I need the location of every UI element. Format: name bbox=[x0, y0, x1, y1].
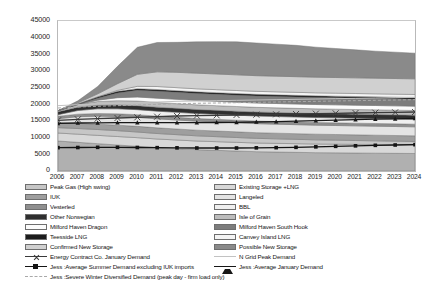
legend-item-label: IUK bbox=[50, 193, 60, 200]
line-marker bbox=[215, 146, 219, 150]
legend-item[interactable]: Jess :Average Summer Demand excluding IU… bbox=[25, 262, 215, 271]
legend-item[interactable]: Other Norwegian bbox=[25, 212, 215, 221]
line-marker bbox=[136, 146, 140, 150]
y-axis-tick: 20000 bbox=[2, 100, 50, 107]
legend-swatch-icon bbox=[25, 194, 47, 200]
legend-swatch-icon bbox=[25, 214, 47, 220]
legend-item-label: Existing Storage +LNG bbox=[239, 183, 299, 190]
legend-item[interactable]: Jess :Average January Demand bbox=[214, 262, 424, 271]
line-marker bbox=[58, 146, 60, 150]
y-axis-tick: 10000 bbox=[2, 133, 50, 140]
stacked-area-plot bbox=[58, 21, 415, 171]
legend-item[interactable]: Jess :Severe Winter Diversified Demand (… bbox=[25, 272, 215, 281]
line-marker bbox=[374, 144, 378, 148]
line-marker bbox=[76, 146, 80, 150]
legend-swatch-icon bbox=[25, 204, 47, 210]
legend-item-label: Jess :Average January Demand bbox=[239, 263, 323, 270]
line-marker bbox=[334, 145, 338, 149]
legend-item-label: Milford Haven Dragon bbox=[50, 223, 107, 230]
line-marker bbox=[235, 146, 239, 150]
legend-swatch-icon bbox=[25, 244, 47, 250]
legend-line-icon bbox=[25, 273, 47, 280]
legend-item[interactable]: N Grid Peak Demand bbox=[214, 252, 424, 261]
line-marker bbox=[175, 146, 179, 150]
legend-item[interactable]: Vesterled bbox=[25, 202, 215, 211]
legend-swatch-icon bbox=[25, 224, 47, 230]
legend-item[interactable]: IUK bbox=[25, 192, 215, 201]
legend-swatch-icon bbox=[214, 234, 236, 240]
legend-item[interactable]: Peak Gas (High swing) bbox=[25, 182, 215, 191]
legend-item[interactable]: Milford Haven Dragon bbox=[25, 222, 215, 231]
legend-item-label: Isle of Grain bbox=[239, 213, 270, 220]
line-marker bbox=[155, 146, 159, 150]
legend-swatch-icon bbox=[214, 184, 236, 190]
legend-column-left: Peak Gas (High swing)IUKVesterledOther N… bbox=[25, 182, 215, 282]
legend-item-label: Teesside LNG bbox=[50, 233, 87, 240]
legend-item[interactable]: Langeled bbox=[214, 192, 424, 201]
legend-item-label: Vesterled bbox=[50, 203, 74, 210]
line-marker bbox=[274, 146, 278, 150]
legend-item-label: Milford Haven South Hook bbox=[239, 223, 308, 230]
legend-item-label: BBL bbox=[239, 203, 250, 210]
y-axis-tick: 25000 bbox=[2, 83, 50, 90]
legend-item[interactable]: Canvey Island LNG bbox=[214, 232, 424, 241]
line-marker bbox=[393, 143, 397, 147]
y-axis-tick: 40000 bbox=[2, 33, 50, 40]
x-axis-tick: 2024 bbox=[402, 173, 426, 180]
legend-item-label: Possible New Storage bbox=[239, 243, 297, 250]
legend-swatch-icon bbox=[214, 224, 236, 230]
legend-item-label: Energy Contract Co. January Demand bbox=[50, 253, 150, 260]
chart-container: 0500010000150002000025000300003500040000… bbox=[0, 0, 441, 180]
legend-swatch-icon bbox=[214, 244, 236, 250]
line-marker bbox=[96, 146, 100, 150]
plot-area bbox=[57, 20, 416, 172]
y-axis-tick: 45000 bbox=[2, 16, 50, 23]
legend-column-right: Existing Storage +LNGLangeledBBLIsle of … bbox=[214, 182, 424, 272]
legend-item[interactable]: Existing Storage +LNG bbox=[214, 182, 424, 191]
legend-item-label: Langeled bbox=[239, 193, 263, 200]
legend-line-icon bbox=[214, 253, 236, 260]
legend-line-icon bbox=[214, 263, 236, 270]
legend-item[interactable]: Isle of Grain bbox=[214, 212, 424, 221]
legend-item-label: Jess :Severe Winter Diversified Demand (… bbox=[50, 273, 224, 280]
legend-item-label: Confirmed New Storage bbox=[50, 243, 113, 250]
y-axis-tick: 0 bbox=[2, 166, 50, 173]
chart-legend: Peak Gas (High swing)IUKVesterledOther N… bbox=[0, 182, 441, 288]
legend-item[interactable]: Energy Contract Co. January Demand bbox=[25, 252, 215, 261]
legend-swatch-icon bbox=[214, 214, 236, 220]
legend-item-label: Other Norwegian bbox=[50, 213, 95, 220]
chart-page: 0500010000150002000025000300003500040000… bbox=[0, 0, 441, 288]
legend-item[interactable]: Possible New Storage bbox=[214, 242, 424, 251]
line-marker bbox=[314, 145, 318, 149]
legend-line-icon bbox=[25, 263, 47, 270]
legend-line-icon bbox=[25, 253, 47, 260]
y-axis-tick: 30000 bbox=[2, 66, 50, 73]
legend-swatch-icon bbox=[25, 234, 47, 240]
line-marker bbox=[255, 146, 259, 150]
line-marker bbox=[294, 146, 298, 150]
y-axis-tick: 5000 bbox=[2, 150, 50, 157]
y-axis-tick: 15000 bbox=[2, 116, 50, 123]
legend-item[interactable]: BBL bbox=[214, 202, 424, 211]
y-axis-tick: 35000 bbox=[2, 50, 50, 57]
legend-item-label: Peak Gas (High swing) bbox=[50, 183, 110, 190]
legend-swatch-icon bbox=[25, 184, 47, 190]
legend-item-label: Jess :Average Summer Demand excluding IU… bbox=[50, 263, 194, 270]
legend-swatch-icon bbox=[214, 204, 236, 210]
line-marker bbox=[354, 144, 358, 148]
line-marker bbox=[116, 146, 120, 150]
legend-item[interactable]: Confirmed New Storage bbox=[25, 242, 215, 251]
legend-swatch-icon bbox=[214, 194, 236, 200]
legend-item[interactable]: Teesside LNG bbox=[25, 232, 215, 241]
legend-item-label: Canvey Island LNG bbox=[239, 233, 290, 240]
legend-item[interactable]: Milford Haven South Hook bbox=[214, 222, 424, 231]
legend-item-label: N Grid Peak Demand bbox=[239, 253, 295, 260]
line-marker bbox=[413, 143, 415, 147]
line-marker bbox=[195, 146, 199, 150]
